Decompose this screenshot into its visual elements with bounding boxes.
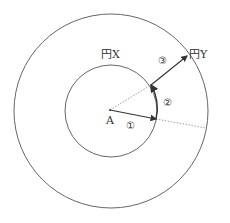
inner-circle-label: 円X bbox=[101, 48, 120, 61]
step-2-label: ② bbox=[163, 97, 172, 108]
inner-circle-x bbox=[65, 65, 157, 157]
outer-circle-label: 円Y bbox=[189, 48, 208, 61]
concentric-circles-diagram: A 円X 円Y ① ② ③ bbox=[0, 0, 230, 223]
dotted-extension-lower bbox=[156, 119, 206, 128]
center-label: A bbox=[105, 114, 115, 127]
step-1-label: ① bbox=[126, 120, 135, 131]
step-3-label: ③ bbox=[158, 55, 167, 66]
outer-circle-y bbox=[14, 14, 208, 208]
arrow-step-3 bbox=[151, 56, 187, 85]
center-point-a bbox=[109, 109, 111, 111]
arrow-step-1 bbox=[110, 110, 156, 119]
dotted-radius-upper bbox=[110, 85, 151, 110]
